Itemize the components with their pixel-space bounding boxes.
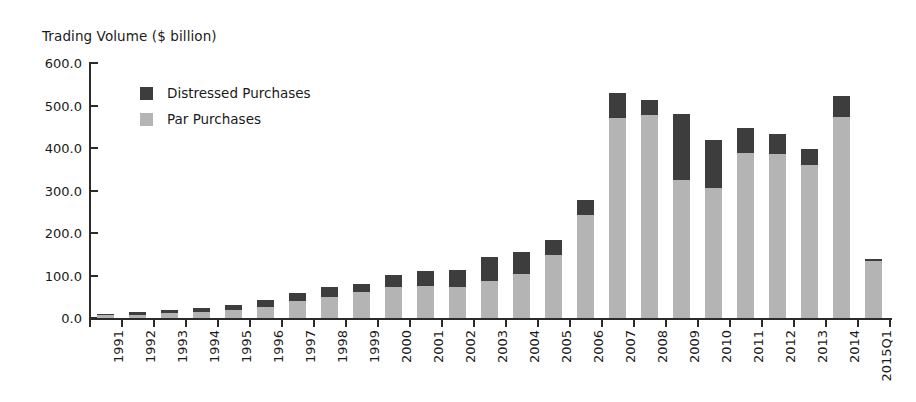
bar-column xyxy=(97,314,114,318)
bar-segment-par xyxy=(577,215,594,318)
x-axis-label: 2000 xyxy=(399,330,414,363)
bar-segment-par xyxy=(769,154,786,318)
bar-segment-distressed xyxy=(641,100,658,115)
x-axis-line xyxy=(89,318,892,320)
bar-column xyxy=(545,240,562,318)
bar-segment-par xyxy=(641,115,658,318)
x-axis-label: 1999 xyxy=(367,330,382,363)
stacked-bar-chart: Trading Volume ($ billion) 600.0500.0400… xyxy=(0,0,916,402)
bar-column xyxy=(737,128,754,318)
x-axis-tick xyxy=(89,319,91,327)
legend-item-distressed: Distressed Purchases xyxy=(140,82,311,104)
x-axis-tick xyxy=(569,319,571,327)
bar-column xyxy=(353,284,370,318)
bar-column xyxy=(865,259,882,318)
bar-column xyxy=(449,270,466,318)
bar-segment-distressed xyxy=(321,287,338,296)
y-axis-title: Trading Volume ($ billion) xyxy=(42,28,217,44)
bar-column xyxy=(577,200,594,318)
x-axis-tick xyxy=(473,319,475,327)
x-axis-tick xyxy=(377,319,379,327)
x-axis-label: 2006 xyxy=(591,330,606,363)
bar-column xyxy=(289,293,306,319)
bar-segment-par xyxy=(321,297,338,318)
x-axis-tick xyxy=(153,319,155,327)
x-axis-tick xyxy=(121,319,123,327)
y-axis-tick-label: 0.0 xyxy=(12,311,82,326)
bar-column xyxy=(385,275,402,318)
x-axis-tick xyxy=(505,319,507,327)
bar-segment-distressed xyxy=(417,271,434,286)
x-axis-tick xyxy=(537,319,539,327)
bar-segment-distressed xyxy=(289,293,306,302)
x-axis-label: 2013 xyxy=(815,330,830,363)
bar-segment-par xyxy=(193,312,210,318)
x-axis-tick xyxy=(441,319,443,327)
bar-column xyxy=(161,310,178,318)
distressed-swatch-icon xyxy=(140,87,153,100)
bar-segment-distressed xyxy=(449,270,466,288)
x-axis-tick xyxy=(889,319,891,327)
bar-column xyxy=(801,149,818,318)
y-axis-tick-label: 200.0 xyxy=(12,226,82,241)
bar-column xyxy=(417,271,434,318)
x-axis-label: 1992 xyxy=(143,330,158,363)
bar-segment-distressed xyxy=(257,300,274,307)
x-axis-tick xyxy=(633,319,635,327)
bar-segment-par xyxy=(801,165,818,318)
x-axis-tick xyxy=(793,319,795,327)
bar-column xyxy=(225,305,242,318)
bar-segment-distressed xyxy=(513,252,530,274)
y-axis-tick-label: 300.0 xyxy=(12,183,82,198)
bar-column xyxy=(129,312,146,318)
x-axis-tick xyxy=(761,319,763,327)
bar-column xyxy=(193,308,210,318)
x-axis-tick xyxy=(281,319,283,327)
bar-column xyxy=(673,114,690,318)
y-axis-tick-label: 600.0 xyxy=(12,56,82,71)
x-axis-tick xyxy=(217,319,219,327)
x-axis-tick xyxy=(665,319,667,327)
bar-column xyxy=(481,257,498,318)
x-axis-label: 2001 xyxy=(431,330,446,363)
x-axis-tick xyxy=(249,319,251,327)
bar-column xyxy=(257,300,274,318)
x-axis-tick xyxy=(313,319,315,327)
x-axis-label: 1995 xyxy=(239,330,254,363)
bar-segment-distressed xyxy=(577,200,594,215)
y-axis-tick-label: 500.0 xyxy=(12,98,82,113)
bar-segment-par xyxy=(289,301,306,318)
legend-label-par: Par Purchases xyxy=(167,111,261,127)
bar-segment-par xyxy=(385,287,402,318)
bar-segment-par xyxy=(673,180,690,318)
x-axis-label: 2005 xyxy=(559,330,574,363)
bar-column xyxy=(769,134,786,318)
x-axis-tick xyxy=(825,319,827,327)
bar-segment-par xyxy=(545,255,562,318)
x-axis-tick xyxy=(601,319,603,327)
x-axis-label: 2015Q1 xyxy=(879,330,894,382)
bar-segment-distressed xyxy=(481,257,498,281)
bar-segment-distressed xyxy=(705,140,722,188)
bar-segment-distressed xyxy=(353,284,370,292)
bar-column xyxy=(513,252,530,318)
x-axis-label: 1994 xyxy=(207,330,222,363)
bar-segment-par xyxy=(833,117,850,318)
bar-segment-par xyxy=(737,153,754,318)
bar-segment-distressed xyxy=(673,114,690,180)
x-axis-label: 2003 xyxy=(495,330,510,363)
bar-segment-par xyxy=(353,292,370,318)
x-axis-label: 1998 xyxy=(335,330,350,363)
x-axis-label: 1997 xyxy=(303,330,318,363)
x-axis-label: 2009 xyxy=(687,330,702,363)
bar-segment-par xyxy=(705,188,722,318)
y-axis-tick-label: 400.0 xyxy=(12,141,82,156)
bar-segment-par xyxy=(161,313,178,318)
x-axis-label: 2004 xyxy=(527,330,542,363)
bar-segment-distressed xyxy=(737,128,754,153)
x-axis-label: 1993 xyxy=(175,330,190,363)
x-axis-label: 2008 xyxy=(655,330,670,363)
x-axis-tick xyxy=(857,319,859,327)
legend-item-par: Par Purchases xyxy=(140,108,311,130)
bar-segment-par xyxy=(513,274,530,318)
